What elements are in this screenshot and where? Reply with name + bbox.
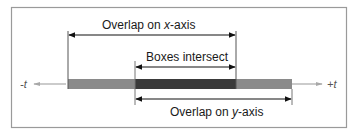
x-box-only-segment [68,79,135,89]
x-overlap-label: Overlap on x-axis [102,18,195,32]
y-overlap-label: Overlap on y-axis [170,105,263,119]
x-overlap-text: Overlap on x-axis [102,18,195,32]
y-box-only-segment [236,79,292,89]
axis-label-negative: -t [20,78,28,90]
intersection-segment [135,79,236,89]
overlap-diagram: -t +t Overlap on x-axis Boxes intersect … [0,0,355,133]
intersect-label: Boxes intersect [146,50,229,64]
axis-label-positive: +t [327,78,337,90]
